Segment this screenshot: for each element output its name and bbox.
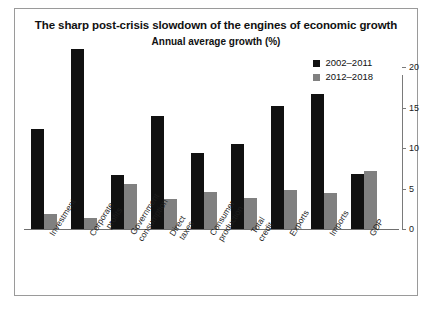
x-axis-labels: InvestmentCorporateprofitsGovernmentcons…: [24, 231, 399, 301]
bar[interactable]: [351, 174, 364, 229]
bar-group: [311, 67, 337, 229]
y-axis-tick-label: 0: [409, 224, 414, 234]
bar[interactable]: [31, 129, 44, 229]
y-axis-tick: [402, 229, 406, 230]
y-axis-tick-label: 5: [409, 184, 414, 194]
bar-group: [31, 67, 57, 229]
y-axis-tick-label: 10: [409, 143, 419, 153]
bar-group: [191, 67, 217, 229]
y-axis-tick: [402, 108, 406, 109]
y-axis-tick: [402, 189, 406, 190]
y-axis-line: [402, 75, 403, 229]
bar-group: [351, 67, 377, 229]
bar[interactable]: [311, 94, 324, 229]
y-axis-tick-label: 20: [409, 62, 419, 72]
y-axis-tick: [402, 148, 406, 149]
chart-subtitle: Annual average growth (%): [15, 36, 417, 47]
bar[interactable]: [191, 153, 204, 229]
chart-title: The sharp post-crisis slowdown of the en…: [15, 19, 417, 31]
bar[interactable]: [271, 106, 284, 229]
y-axis-tick: [402, 67, 406, 68]
chart-figure: The sharp post-crisis slowdown of the en…: [14, 8, 418, 296]
bar-group: [271, 67, 297, 229]
y-axis-tick-label: 15: [409, 103, 419, 113]
legend-swatch-series-1: [313, 60, 320, 67]
plot-area: [24, 67, 384, 229]
